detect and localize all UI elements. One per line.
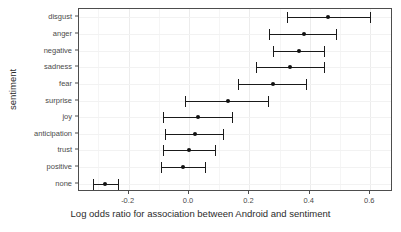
y-axis-title: sentiment [7,50,18,130]
data-point[interactable] [103,182,107,186]
error-bar-cap-high [370,12,371,23]
data-point[interactable] [288,65,292,69]
gridline-minor [159,9,160,190]
error-bar-cap-high [215,145,216,156]
x-axis-title: Log odds ratio for association between A… [0,208,401,219]
data-point[interactable] [302,32,306,36]
y-tick-mark [75,82,78,83]
x-tick-label: -0.2 [121,196,134,205]
y-tick-label: positive [0,162,72,171]
y-tick-label: anticipation [0,128,72,137]
error-bar-cap-high [324,62,325,73]
gridline-major [129,9,130,190]
gridline-horizontal [79,134,391,135]
x-tick-mark [309,191,310,194]
gridline-horizontal [79,117,391,118]
data-point[interactable] [297,49,301,53]
x-tick-label: 0.4 [304,196,314,205]
data-point[interactable] [181,165,185,169]
error-bar-cap-low [256,62,257,73]
y-tick-label: disgust [0,12,72,21]
data-point[interactable] [196,115,200,119]
y-tick-mark [75,149,78,150]
x-tick-mark [369,191,370,194]
gridline-horizontal [79,34,391,35]
y-tick-mark [75,182,78,183]
gridline-horizontal [79,51,391,52]
chart-container: disgustangernegativesadnessfearsurprisej… [0,0,401,232]
y-tick-label: trust [0,145,72,154]
y-tick-label: anger [0,28,72,37]
plot-panel [78,8,392,191]
error-bar-cap-low [269,29,270,40]
error-bar-cap-low [287,12,288,23]
gridline-horizontal [79,167,391,168]
x-tick-label: 0.6 [364,196,374,205]
x-tick-label: 0.2 [243,196,253,205]
data-point[interactable] [193,132,197,136]
gridline-minor [280,9,281,190]
y-tick-mark [75,16,78,17]
gridline-major [310,9,311,190]
error-bar-cap-high [118,179,119,190]
gridline-major [249,9,250,190]
error-bar-cap-low [163,112,164,123]
error-bar-cap-low [163,145,164,156]
gridline-horizontal [79,150,391,151]
error-bar-cap-low [165,129,166,140]
y-tick-mark [75,32,78,33]
gridline-horizontal [79,184,391,185]
gridline-major [189,9,190,190]
error-bar-cap-high [223,129,224,140]
x-tick-label: 0.0 [183,196,193,205]
error-bar-cap-high [232,112,233,123]
gridline-horizontal [79,67,391,68]
y-tick-mark [75,49,78,50]
gridline-horizontal [79,84,391,85]
error-bar-cap-low [273,46,274,57]
error-bar-cap-high [268,96,269,107]
y-tick-mark [75,99,78,100]
y-tick-mark [75,132,78,133]
x-tick-mark [248,191,249,194]
error-bar-cap-high [205,162,206,173]
gridline-minor [340,9,341,190]
y-tick-mark [75,116,78,117]
y-tick-mark [75,66,78,67]
error-bar-cap-low [93,179,94,190]
error-bar-cap-low [161,162,162,173]
x-tick-mark [188,191,189,194]
data-point[interactable] [226,99,230,103]
error-bar-cap-high [306,79,307,90]
gridline-major [370,9,371,190]
data-point[interactable] [271,82,275,86]
gridline-minor [219,9,220,190]
error-bar-cap-high [336,29,337,40]
data-point[interactable] [326,15,330,19]
x-tick-mark [128,191,129,194]
error-bar-cap-high [324,46,325,57]
error-bar-cap-low [185,96,186,107]
y-tick-mark [75,166,78,167]
y-tick-label: none [0,178,72,187]
gridline-minor [98,9,99,190]
data-point[interactable] [187,148,191,152]
error-bar-cap-low [238,79,239,90]
